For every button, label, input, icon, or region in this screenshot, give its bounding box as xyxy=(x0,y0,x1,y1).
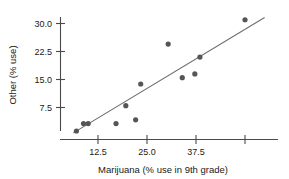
x-axis-title: Marijuana (% use in 9th grade) xyxy=(98,164,228,175)
scatter-plot-figure: 30.0 22.5 15.0 7.5 12.5 25.0 37.5 Mariju… xyxy=(0,0,289,179)
data-point xyxy=(123,103,128,108)
data-point xyxy=(138,81,143,86)
data-point xyxy=(180,75,185,80)
data-point xyxy=(81,121,86,126)
data-point xyxy=(242,17,247,22)
x-tick-label-25: 25.0 xyxy=(138,147,156,157)
data-points-layer xyxy=(74,17,248,133)
y-tick-label-30: 30.0 xyxy=(34,19,52,29)
data-point xyxy=(133,117,138,122)
y-tick-label-7-5: 7.5 xyxy=(39,103,52,113)
data-point xyxy=(197,55,202,60)
data-point xyxy=(113,121,118,126)
data-point xyxy=(166,41,171,46)
plot-canvas: 30.0 22.5 15.0 7.5 12.5 25.0 37.5 Mariju… xyxy=(0,0,289,179)
y-tick-label-22-5: 22.5 xyxy=(34,47,52,57)
x-tick-label-12-5: 12.5 xyxy=(89,147,107,157)
x-tick-label-37-5: 37.5 xyxy=(187,147,205,157)
data-point xyxy=(192,71,197,76)
data-point xyxy=(74,128,79,133)
y-tick-label-15: 15.0 xyxy=(34,75,52,85)
y-axis-title: Other (% use) xyxy=(7,45,18,104)
regression-line xyxy=(73,18,264,133)
data-point xyxy=(86,121,91,126)
